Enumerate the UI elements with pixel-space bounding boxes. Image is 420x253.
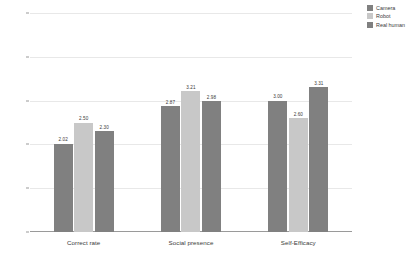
bar[interactable] [161, 106, 180, 232]
bar-column[interactable]: 3.21 [181, 13, 200, 232]
bar-column[interactable]: 2.60 [289, 13, 308, 232]
y-axis-tick-mark [26, 56, 29, 57]
bar-value-label: 3.21 [186, 85, 195, 90]
bar-group: 2.022.502.30Correct rate [30, 13, 137, 232]
bar-column[interactable]: 3.31 [309, 13, 328, 232]
legend-swatch-icon [367, 5, 373, 11]
bar[interactable] [54, 144, 73, 232]
chart-legend: CameraRobotReal human [367, 5, 405, 28]
legend-item-label: Camera [376, 5, 395, 11]
bar-group-bars: 2.873.212.98 [137, 13, 244, 232]
bar-group-bars: 3.002.603.31 [245, 13, 352, 232]
legend-swatch-icon [367, 13, 373, 19]
legend-swatch-icon [367, 22, 373, 28]
y-axis-tick-mark [26, 232, 29, 233]
bar[interactable] [181, 91, 200, 232]
y-axis-tick-mark [26, 188, 29, 189]
x-axis-category-label: Social presence [169, 239, 214, 246]
y-axis-tick-mark [26, 144, 29, 145]
bar-column[interactable]: 2.02 [54, 13, 73, 232]
bar-group: 3.002.603.31Self-Efficacy [245, 13, 352, 232]
bar-value-label: 2.50 [79, 116, 88, 121]
legend-item[interactable]: Robot [367, 13, 405, 19]
bar[interactable] [202, 101, 221, 232]
legend-item[interactable]: Camera [367, 5, 405, 11]
bar-value-label: 2.02 [58, 137, 67, 142]
legend-item-label: Real human [376, 22, 405, 28]
bar-group: 2.873.212.98Social presence [137, 13, 244, 232]
y-axis-tick-mark [26, 100, 29, 101]
legend-item-label: Robot [376, 13, 390, 19]
bar-value-label: 2.87 [166, 100, 175, 105]
x-axis-category-label: Correct rate [67, 239, 100, 246]
bar[interactable] [268, 101, 287, 232]
bar[interactable] [95, 131, 114, 232]
bar-value-label: 2.98 [207, 95, 216, 100]
bar-column[interactable]: 2.30 [95, 13, 114, 232]
bar[interactable] [289, 118, 308, 232]
bar-group-bars: 2.022.502.30 [30, 13, 137, 232]
bar-chart: 0.001.002.003.004.005.002.022.502.30Corr… [0, 0, 420, 253]
bar-value-label: 2.30 [99, 125, 108, 130]
bar-value-label: 3.31 [314, 81, 323, 86]
bar-value-label: 2.60 [294, 112, 303, 117]
bar[interactable] [309, 87, 328, 232]
legend-item[interactable]: Real human [367, 22, 405, 28]
bar-value-label: 3.00 [273, 94, 282, 99]
bar-column[interactable]: 2.50 [74, 13, 93, 232]
plot-area: 0.001.002.003.004.005.002.022.502.30Corr… [30, 13, 352, 232]
bar[interactable] [74, 123, 93, 233]
y-axis-tick-mark [26, 13, 29, 14]
bar-column[interactable]: 2.87 [161, 13, 180, 232]
x-axis-category-label: Self-Efficacy [281, 239, 316, 246]
bar-column[interactable]: 3.00 [268, 13, 287, 232]
bar-column[interactable]: 2.98 [202, 13, 221, 232]
